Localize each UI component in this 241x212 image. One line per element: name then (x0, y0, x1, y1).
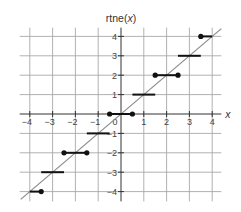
closed-endpoint-dot (39, 189, 44, 194)
x-tick-label: 4 (210, 117, 215, 127)
x-tick-label: 2 (164, 117, 169, 127)
x-tick-label: −3 (44, 117, 54, 127)
x-tick-label: 3 (187, 117, 192, 127)
y-tick-label: −2 (107, 148, 117, 158)
closed-endpoint-dot (130, 111, 135, 116)
title-prefix: rtne( (106, 12, 128, 24)
chart-title: rtne(x) (106, 12, 136, 24)
title-suffix: ) (133, 12, 137, 24)
x-tick-label: −2 (67, 117, 77, 127)
y-tick-label: 4 (112, 32, 117, 42)
y-tick-label: 2 (112, 71, 117, 81)
y-tick-label: −3 (107, 168, 117, 178)
x-tick-label: −4 (22, 117, 32, 127)
closed-endpoint-dot (175, 73, 180, 78)
rtne-chart: −4−3−2−101234−4−3−2−11234 rtne(x) x (0, 0, 241, 212)
x-tick-label: −1 (90, 117, 100, 127)
closed-endpoint-dot (107, 111, 112, 116)
x-axis-label: x (224, 108, 231, 120)
closed-endpoint-dot (84, 150, 89, 155)
x-tick-label: 1 (141, 117, 146, 127)
closed-endpoint-dot (198, 34, 203, 39)
y-tick-label: −4 (107, 187, 117, 197)
y-tick-label: 3 (112, 51, 117, 61)
closed-endpoint-dot (61, 150, 66, 155)
closed-endpoint-dot (153, 73, 158, 78)
y-tick-label: 1 (112, 90, 117, 100)
